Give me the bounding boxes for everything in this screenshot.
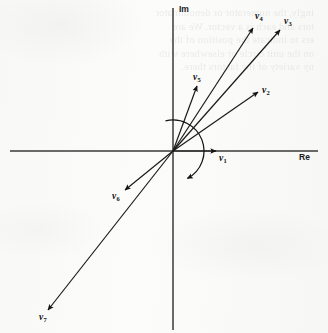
vector-label-subscript: 2 xyxy=(267,89,270,96)
diagram-canvas xyxy=(0,0,328,333)
vector-label-v7: v7 xyxy=(39,313,46,323)
imaginary-axis-label: Im xyxy=(179,5,189,14)
vector-label-base: v xyxy=(262,85,266,95)
axes-group xyxy=(10,8,318,330)
vector-v4 xyxy=(173,28,253,151)
vector-label-base: v xyxy=(193,72,197,82)
vector-label-subscript: 7 xyxy=(44,316,47,323)
vector-label-subscript: 4 xyxy=(260,15,263,22)
vector-label-subscript: 3 xyxy=(289,20,292,27)
vector-label-base: v xyxy=(284,16,288,26)
vector-label-subscript: 5 xyxy=(198,76,201,83)
rotation-arc xyxy=(166,120,204,178)
vector-v2 xyxy=(173,92,258,151)
real-axis-label: Re xyxy=(299,153,310,162)
vector-label-subscript: 1 xyxy=(224,157,227,164)
vector-v7 xyxy=(48,151,173,310)
vector-label-v6: v6 xyxy=(112,192,119,202)
vector-label-subscript: 6 xyxy=(117,195,120,202)
vector-label-base: v xyxy=(219,153,223,163)
vector-label-base: v xyxy=(39,312,43,322)
vector-label-v3: v3 xyxy=(284,17,291,27)
vector-label-v5: v5 xyxy=(193,73,200,83)
vectors-group xyxy=(48,28,280,310)
vector-v5 xyxy=(173,86,197,151)
vector-v6 xyxy=(125,151,173,190)
vector-label-base: v xyxy=(112,191,116,201)
vector-label-v2: v2 xyxy=(262,86,269,96)
vector-label-v1: v1 xyxy=(219,154,226,164)
vector-label-base: v xyxy=(255,11,259,21)
vector-label-v4: v4 xyxy=(255,12,262,22)
rotation-arc-path xyxy=(166,120,204,178)
phasor-diagram-figure: ingly, the numerator or denominator tors… xyxy=(0,0,328,333)
